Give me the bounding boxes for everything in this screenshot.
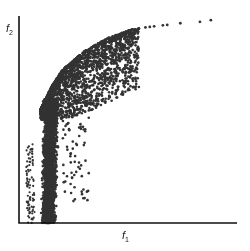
y-axis-label: f2 (6, 22, 13, 36)
x-axis-label: f1 (122, 229, 129, 243)
scatter-plot (0, 0, 250, 251)
